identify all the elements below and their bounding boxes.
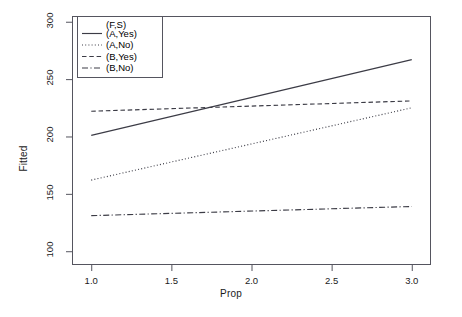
line-chart: Fitted Prop 100150200250300 1.01.52.02.5… [0, 0, 462, 317]
legend-item-label: (A,No) [106, 39, 133, 50]
x-tick-label: 2.0 [235, 275, 269, 286]
y-tick-label: 250 [44, 63, 55, 93]
x-axis-title: Prop [0, 288, 462, 299]
x-tick-label: 1.5 [154, 275, 188, 286]
y-tick-label: 200 [44, 120, 55, 150]
x-tick-label: 2.5 [315, 275, 349, 286]
legend-item-label: (B,No) [106, 62, 133, 73]
plot-canvas [0, 0, 462, 317]
x-tick-label: 3.0 [395, 275, 429, 286]
x-tick-label: 1.0 [74, 275, 108, 286]
legend: (F,S)(A,Yes)(A,No)(B,Yes)(B,No) [77, 16, 163, 78]
y-axis-title: Fitted [18, 0, 32, 317]
legend-item-label: (B,Yes) [106, 51, 137, 62]
y-tick-label: 150 [44, 177, 55, 207]
series-line-bno [91, 206, 412, 215]
y-tick-label: 100 [44, 235, 55, 265]
series-line-ano [91, 108, 412, 180]
legend-item-label: (A,Yes) [106, 28, 137, 39]
y-tick-label: 300 [44, 5, 55, 35]
series-line-byes [91, 101, 412, 111]
